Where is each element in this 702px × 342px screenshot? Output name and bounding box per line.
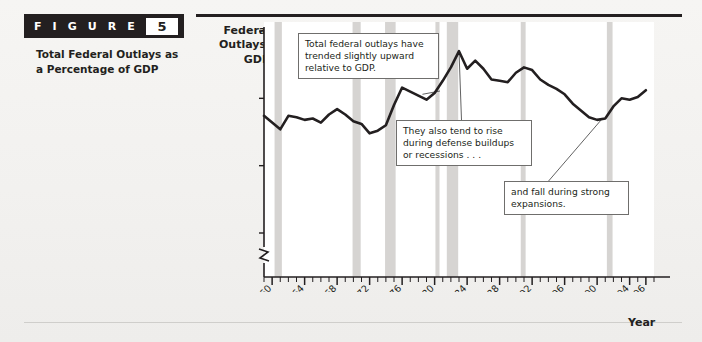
top-divider-rule (196, 14, 682, 17)
bottom-divider-rule (24, 322, 682, 323)
annotation-callout-trend: Total federal outlays have trended sligh… (298, 33, 439, 79)
svg-text:1984: 1984 (443, 283, 468, 292)
figure-number: 5 (146, 18, 178, 35)
svg-text:1972: 1972 (346, 283, 371, 292)
svg-text:1964: 1964 (281, 283, 306, 292)
svg-text:1968: 1968 (313, 283, 338, 292)
svg-text:2004: 2004 (606, 283, 631, 292)
annotation-callout-rise: They also tend to rise during defense bu… (396, 120, 532, 166)
figure-root: F I G U R E 5 Total Federal Outlays as a… (0, 0, 702, 342)
svg-text:1996: 1996 (541, 283, 566, 292)
x-axis-title: Year (628, 316, 655, 329)
x-axis (264, 277, 670, 285)
x-tick-labels: 1960196419681972197619801984198819921996… (258, 283, 647, 292)
svg-text:1992: 1992 (508, 283, 533, 292)
figure-label: F I G U R E (34, 20, 146, 33)
figure-caption: Total Federal Outlays as a Percentage of… (24, 47, 186, 77)
svg-text:1980: 1980 (411, 283, 436, 292)
svg-text:2000: 2000 (573, 283, 598, 292)
annotation-callout-fall: and fall during strong expansions. (504, 181, 629, 215)
svg-text:1976: 1976 (378, 283, 403, 292)
figure-tag-bar: F I G U R E 5 (24, 14, 184, 38)
svg-text:1988: 1988 (476, 283, 501, 292)
svg-text:1960: 1960 (258, 283, 274, 292)
figure-header: F I G U R E 5 Total Federal Outlays as a… (24, 14, 184, 77)
